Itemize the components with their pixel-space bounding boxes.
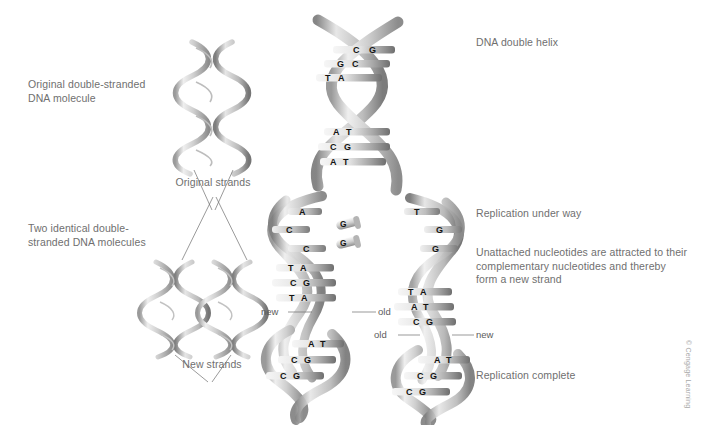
base-letter: G [419,387,426,397]
label-two-molecules: Two identical double- stranded DNA molec… [28,222,146,249]
base-letter: A [299,207,306,217]
label-fork-left-old: old [378,306,391,317]
base-letter: G [304,355,311,365]
label-dna-double-helix: DNA double helix [476,36,558,50]
base-letter: T [320,339,326,349]
base-letter: T [343,157,349,167]
label-new-strands: New strands [162,358,262,372]
base-letter: C [406,387,413,397]
base-letter: A [300,263,307,273]
replication-fork [272,196,474,380]
base-letter: A [338,73,345,83]
base-letter: G [426,317,433,327]
base-letter: G [303,278,310,288]
label-nucleotide-note: Unattached nucleotides are attracted to … [476,246,687,287]
label-fork-left-new: new [261,306,278,317]
base-letter: A [434,355,441,365]
base-letter: G [344,142,351,152]
base-letter: T [289,293,295,303]
base-letter: A [411,302,418,312]
dna-replication-figure: C G G C T A A T C G A T A C C T G G G G … [0,0,702,425]
base-letter: C [303,244,310,254]
base-letter: A [308,339,315,349]
dna-artwork: C G G C T A A T C G A T A C C T G G G G … [0,0,702,425]
completed-helix-right [392,350,470,424]
free-nucleotide-letter: G [340,219,347,229]
base-letter: G [432,244,439,254]
base-letter: T [423,302,429,312]
label-replication-complete: Replication complete [476,369,575,383]
base-letter: T [446,355,452,365]
base-letter: T [325,73,331,83]
base-letter: T [346,127,352,137]
base-letter: C [353,45,360,55]
base-letter: G [369,45,376,55]
base-letter: T [288,263,294,273]
base-letter: A [301,293,308,303]
label-fork-right-old: old [374,329,387,340]
base-letter: G [436,225,443,235]
base-letter: C [330,142,337,152]
base-letter: C [352,59,359,69]
base-letter: T [414,207,420,217]
base-letter: C [290,278,297,288]
free-nucleotide-letter: G [340,238,347,248]
base-letter: C [413,317,420,327]
base-letter: C [291,355,298,365]
base-letter: C [280,371,287,381]
base-letter: A [330,157,337,167]
base-letter: T [408,287,414,297]
completed-helix-left [266,330,346,420]
rung-group-lower [318,128,390,166]
base-letter: G [293,371,300,381]
base-letter: A [333,127,340,137]
base-letter: G [337,59,344,69]
base-letter: G [430,371,437,381]
base-letter: C [286,225,293,235]
base-letter: C [417,371,424,381]
label-fork-right-new: new [476,329,493,340]
copyright-credit: © Cengage Learning [685,340,692,408]
label-original-molecule: Original double-stranded DNA molecule [28,78,145,105]
label-replication-under-way: Replication under way [476,207,581,221]
base-letter: A [420,287,427,297]
divergence-arrow [182,197,247,260]
label-original-strands: Original strands [163,176,263,190]
